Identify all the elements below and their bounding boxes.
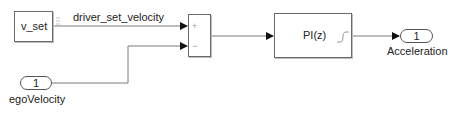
signal-logging-icon [56, 18, 60, 24]
signal-label-driver-set-velocity[interactable]: driver_set_velocity [73, 11, 164, 23]
sum-plus-sign: + [192, 21, 197, 31]
step-response-icon [336, 31, 350, 43]
pi-controller-block[interactable]: PI(z) [274, 13, 352, 58]
ego-velocity-port-number: 1 [33, 77, 39, 89]
acceleration-outport[interactable]: 1 [400, 29, 433, 43]
acceleration-port-number: 1 [413, 30, 419, 42]
sum-block[interactable]: + − [188, 14, 211, 57]
ego-velocity-label: egoVelocity [9, 93, 65, 105]
diagram-canvas: v_set driver_set_velocity + − PI(z) 1 eg… [0, 0, 455, 114]
signal-lines [0, 0, 455, 114]
v-set-block[interactable]: v_set [14, 11, 53, 42]
ego-velocity-inport[interactable]: 1 [20, 76, 52, 90]
sum-minus-sign: − [192, 41, 197, 51]
acceleration-label: Acceleration [387, 45, 448, 57]
pi-controller-label: PI(z) [303, 29, 326, 41]
v-set-label: v_set [21, 20, 47, 32]
signal-ego-velocity[interactable] [52, 46, 187, 83]
